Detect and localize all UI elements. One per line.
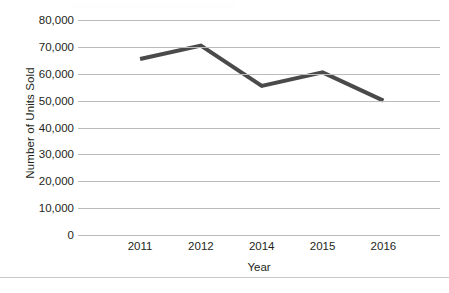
line-chart: Number of Units Sold 80,00070,00060,0005… <box>0 0 449 293</box>
gridline <box>78 181 440 182</box>
gridline <box>78 154 440 155</box>
gridline <box>78 74 440 75</box>
gridline <box>78 47 440 48</box>
gridline <box>78 235 440 236</box>
x-axis-tick-label: 2016 <box>343 239 423 253</box>
page-divider <box>0 277 449 278</box>
y-axis-tick-label: 0 <box>18 229 74 241</box>
gridline <box>78 128 440 129</box>
y-axis-tick-label: 20,000 <box>18 175 74 187</box>
x-axis-tick-labels: 20112012201420152016 <box>78 239 440 255</box>
gridline <box>78 208 440 209</box>
gridline <box>78 20 440 21</box>
cropped-caption-remnant <box>66 2 236 9</box>
y-axis-tick-label: 80,000 <box>18 14 74 26</box>
x-axis-title: Year <box>78 261 440 273</box>
y-axis-tick-label: 10,000 <box>18 202 74 214</box>
gridline <box>78 101 440 102</box>
y-axis-tick-label: 50,000 <box>18 95 74 107</box>
y-axis-tick-label: 60,000 <box>18 68 74 80</box>
y-axis-tick-label: 70,000 <box>18 41 74 53</box>
y-axis-tick-label: 30,000 <box>18 148 74 160</box>
y-axis-tick-label: 40,000 <box>18 122 74 134</box>
plot-area <box>78 20 440 235</box>
y-axis-tick-labels: 80,00070,00060,00050,00040,00030,00020,0… <box>18 0 74 293</box>
